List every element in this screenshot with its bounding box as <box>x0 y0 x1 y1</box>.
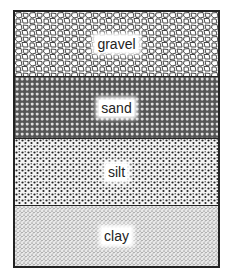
layer-label-clay: clay <box>102 228 131 244</box>
layer-sand: sand <box>15 77 218 139</box>
layer-label-silt: silt <box>106 164 127 180</box>
layer-silt: silt <box>15 139 218 206</box>
layer-label-sand: sand <box>99 100 133 116</box>
layer-clay: clay <box>15 206 218 266</box>
sediment-column: gravel sand silt clay <box>13 10 220 268</box>
layer-label-gravel: gravel <box>95 36 137 52</box>
layer-gravel: gravel <box>15 12 218 77</box>
